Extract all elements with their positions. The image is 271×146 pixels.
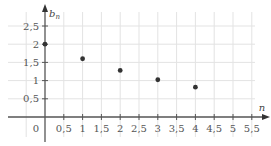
ticks	[42, 26, 252, 120]
x-tick-label: 1,5	[93, 123, 109, 134]
x-axis-label: n	[259, 102, 265, 113]
data-point	[193, 85, 198, 90]
x-tick-label: 3	[155, 123, 161, 134]
x-tick-label: 2,5	[131, 123, 147, 134]
y-axis-arrow-icon	[42, 4, 48, 12]
y-tick-label: 0,5	[23, 93, 39, 104]
chart: 0,511,522,533,544,555,50,511,522,5 n bn …	[0, 0, 271, 146]
x-tick-label: 0,5	[56, 123, 72, 134]
data-point	[43, 42, 48, 47]
x-tick-label: 5,5	[244, 123, 260, 134]
y-axis-label-subscript: n	[55, 13, 60, 21]
x-tick-label: 2	[117, 123, 123, 134]
x-tick-label: 1	[79, 123, 85, 134]
y-tick-label: 1,5	[23, 57, 39, 68]
x-tick-label: 3,5	[169, 123, 185, 134]
x-tick-label: 4,5	[206, 123, 222, 134]
data-point	[155, 77, 160, 82]
data-point	[118, 68, 123, 73]
x-tick-label: 4	[192, 123, 198, 134]
y-tick-label: 1	[33, 75, 39, 86]
y-tick-label: 2	[33, 39, 39, 50]
x-tick-label: 5	[230, 123, 236, 134]
y-tick-label: 2,5	[23, 21, 39, 32]
y-axis-label: bn	[49, 8, 60, 21]
origin-label: 0	[33, 123, 39, 134]
x-axis-arrow-icon	[262, 114, 270, 120]
data-point	[80, 56, 85, 61]
